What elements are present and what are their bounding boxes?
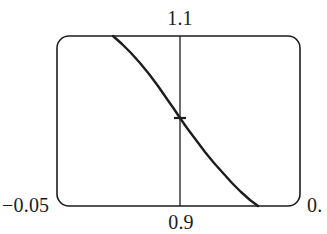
axis-label-right: 0. xyxy=(307,195,322,215)
axis-label-bottom: 0.9 xyxy=(168,212,194,232)
axis-label-left: −0.05 xyxy=(2,195,49,215)
plot-figure: 1.1 0.9 −0.05 0. xyxy=(0,0,327,234)
axis-label-top: 1.1 xyxy=(167,8,193,28)
data-curve xyxy=(113,36,258,206)
plot-frame xyxy=(57,36,300,206)
